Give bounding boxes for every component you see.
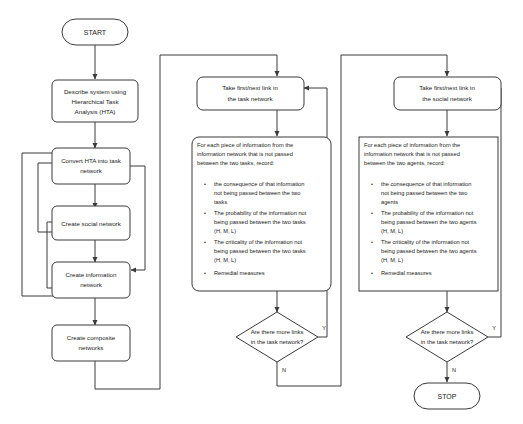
social-record-bullet-2-line-3: (H, M, L) [381,228,403,234]
social-record-bullet-1-line-1: the consequence of that information [381,181,471,187]
create-information-network-line-2: network [80,281,103,288]
social-take-link-shape [394,77,501,110]
node-social-take-link[interactable]: Take first/next link in the social netwo… [394,77,501,110]
social-record-bullet-2-line-1: The probability of the information not [381,210,474,216]
task-record-header-line-3: between the two tasks, record: [197,160,275,166]
social-decision-line-1: Are there more links [421,329,474,335]
task-decision-line-1: Are there more links [251,329,304,335]
task-take-link-line-2: the task network [227,95,273,102]
task-record-header-line-1: For each piece of information from the [197,142,293,148]
social-record-bullet-glyph-4: • [371,270,373,276]
task-record-bullet-glyph-3: • [204,239,206,245]
social-take-link-line-2: the social network [422,95,472,102]
task-take-link-shape [197,77,304,110]
describe-system-line-3: Analysis (HTA) [75,108,116,115]
node-convert-hta[interactable]: Convert HTA into task network [52,148,130,184]
task-record-bullet-3-line-1: The criticality of the information not [214,239,303,245]
social-take-link-line-1: Take first/next link in [419,84,475,91]
social-record-header-line-1: For each piece of information from the [364,142,460,148]
start-label: START [84,29,107,36]
social-decision-line-2: in the task network? [421,339,474,345]
task-record-bullet-glyph-1: • [204,181,206,187]
social-decision-no-label: N [452,367,456,373]
task-record-bullet-glyph-4: • [204,270,206,276]
create-social-network-line-1: Create social network [61,220,121,227]
task-take-link-line-1: Take first/next link in [222,84,278,91]
social-decision-yes-label: Y [492,325,496,331]
node-create-social-network[interactable]: Create social network [52,206,130,240]
social-record-bullet-glyph-1: • [371,181,373,187]
task-record-bullet-1-line-3: tasks [214,199,227,205]
connector-convert-feedback-to-information [130,166,145,270]
task-decision-shape [236,312,318,362]
node-task-record-box[interactable]: For each piece of information from the i… [192,137,331,291]
task-record-bullet-3-line-3: (H, M, L) [214,257,236,263]
task-record-bullet-3-line-2: being passed between the two tasks [214,248,306,254]
social-record-bullet-1-line-2: not being passed between the two [381,190,467,196]
social-record-bullet-glyph-3: • [371,239,373,245]
task-record-bullet-1-line-1: the consequence of that information [214,181,304,187]
node-task-take-link[interactable]: Take first/next link in the task network [197,77,304,110]
task-record-bullet-2-line-3: (H, M, L) [214,228,236,234]
describe-system-line-2: Hierarchical Task [72,98,120,105]
social-record-bullet-3-line-2: being passed between the two agents [381,248,477,254]
describe-system-line-1: Describe system using [64,88,127,95]
task-record-bullet-2-line-2: being passed between the two tasks [214,219,306,225]
social-record-bullet-3-line-3: (H, M, L) [381,257,403,263]
flowchart-diagram: START Describe system using Hierarchical… [0,0,523,424]
social-record-header-line-2: information network that is not passed [364,151,460,157]
task-record-bullet-glyph-2: • [204,210,206,216]
node-task-decision[interactable]: Are there more links in the task network… [236,312,326,373]
social-decision-shape [406,312,488,362]
task-decision-no-label: N [282,367,286,373]
social-record-bullet-glyph-2: • [371,210,373,216]
node-stop[interactable]: STOP [414,383,480,409]
create-composite-networks-line-2: networks [79,344,104,351]
node-create-information-network[interactable]: Create information network [52,262,130,298]
social-record-header-line-3: between the two agents, record: [364,160,445,166]
stop-label: STOP [438,393,457,400]
task-record-bullet-4-line-1: Remedial measures [214,270,265,276]
task-decision-line-2: in the task network? [251,339,304,345]
task-record-header-line-2: information network that is not passed [197,151,293,157]
task-record-bullet-1-line-2: not being passed between the two [214,190,300,196]
task-decision-yes-label: Y [322,325,326,331]
node-start[interactable]: START [62,19,128,45]
create-composite-networks-line-1: Create composite [67,334,116,341]
node-social-record-box[interactable]: For each piece of information from the i… [359,137,498,291]
node-create-composite-networks[interactable]: Create composite networks [52,325,130,361]
task-record-bullet-2-line-1: The probability of the information not [214,210,307,216]
convert-hta-line-2: network [80,167,103,174]
create-information-network-line-1: Create information [66,271,117,278]
node-describe-system[interactable]: Describe system using Hierarchical Task … [52,80,138,122]
social-record-bullet-2-line-2: being passed between the two agents [381,219,477,225]
social-record-bullet-3-line-1: The criticality of the information not [381,239,470,245]
node-social-decision[interactable]: Are there more links in the task network… [406,312,496,373]
convert-hta-line-1: Convert HTA into task [61,157,122,164]
social-record-bullet-4-line-1: Remedial measures [381,270,432,276]
social-record-bullet-1-line-3: agents [381,199,398,205]
